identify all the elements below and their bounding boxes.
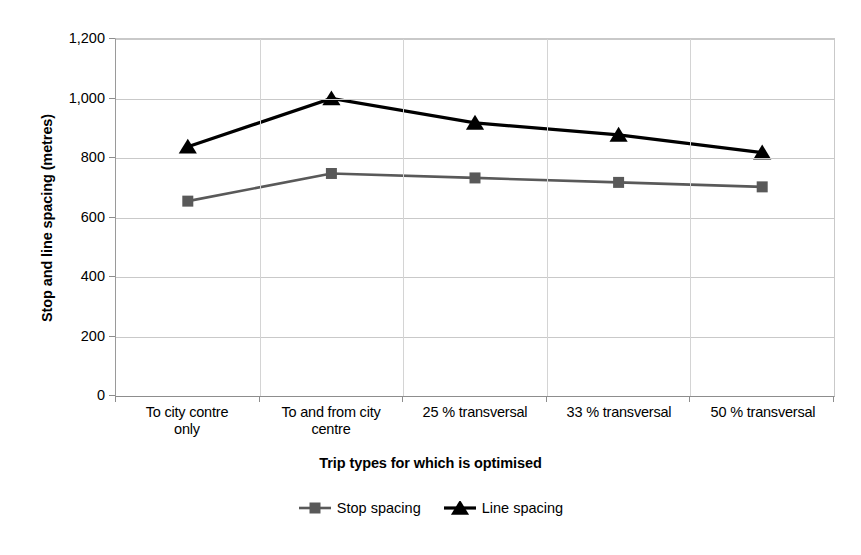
x-category-label: To and from citycentre	[259, 404, 403, 450]
x-axis-title: Trip types for which is optimised	[0, 455, 861, 471]
x-tick-mark	[689, 396, 690, 402]
y-tick-label: 1,000	[43, 91, 105, 106]
triangle-marker-icon	[443, 501, 477, 515]
x-category-label: To city contreonly	[115, 404, 259, 450]
x-category-label-line: 25 % transversal	[403, 404, 547, 421]
x-category-label: 25 % transversal	[403, 404, 547, 450]
data-point-marker	[613, 177, 624, 188]
x-category-label: 33 % transversal	[547, 404, 691, 450]
gridline	[116, 337, 834, 338]
x-tick-mark	[833, 396, 834, 402]
category-separator	[260, 39, 261, 396]
gridline	[116, 39, 834, 40]
legend-box: Stop spacingLine spacing	[290, 498, 571, 519]
legend-label: Line spacing	[482, 501, 563, 516]
legend: Stop spacingLine spacing	[0, 498, 861, 519]
legend-item-line-spacing[interactable]: Line spacing	[443, 501, 563, 516]
gridline	[116, 158, 834, 159]
x-category-label: 50 % transversal	[691, 404, 835, 450]
category-separator	[403, 39, 404, 396]
legend-item-stop-spacing[interactable]: Stop spacing	[298, 501, 421, 516]
x-category-label-line: centre	[259, 421, 403, 438]
square-marker-icon	[298, 501, 332, 515]
gridline	[116, 99, 834, 100]
legend-label: Stop spacing	[337, 501, 421, 516]
gridline	[116, 218, 834, 219]
x-category-label-line: To and from city	[259, 404, 403, 421]
y-tick-label: 800	[43, 150, 105, 165]
x-axis-category-labels: To city contreonlyTo and from citycentre…	[115, 404, 835, 450]
plot-area	[115, 38, 835, 397]
category-separator	[547, 39, 548, 396]
x-tick-mark	[546, 396, 547, 402]
x-category-label-line: 50 % transversal	[691, 404, 835, 421]
x-tick-mark	[259, 396, 260, 402]
x-category-label-line: To city contre	[115, 404, 259, 421]
x-tick-mark	[402, 396, 403, 402]
y-tick-label: 200	[43, 329, 105, 344]
gridline	[116, 277, 834, 278]
y-tick-label: 600	[43, 210, 105, 225]
data-point-marker	[470, 172, 481, 183]
data-point-marker	[326, 168, 337, 179]
chart-container: Stop and line spacing (metres) 020040060…	[0, 0, 861, 555]
y-tick-label: 400	[43, 269, 105, 284]
data-point-marker	[182, 196, 193, 207]
category-separator	[690, 39, 691, 396]
data-point-marker	[757, 181, 768, 192]
y-tick-label: 0	[43, 388, 105, 403]
x-category-label-line: only	[115, 421, 259, 438]
x-tick-mark	[115, 396, 116, 402]
y-tick-label: 1,200	[43, 31, 105, 46]
x-category-label-line: 33 % transversal	[547, 404, 691, 421]
